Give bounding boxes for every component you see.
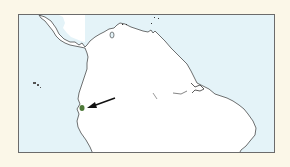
map-frame xyxy=(18,14,275,153)
lake-maracaibo xyxy=(110,32,114,38)
map-svg xyxy=(19,15,275,153)
highlight-area xyxy=(80,105,85,111)
galapagos-islands xyxy=(33,82,41,88)
caribbean-islands xyxy=(122,17,159,25)
